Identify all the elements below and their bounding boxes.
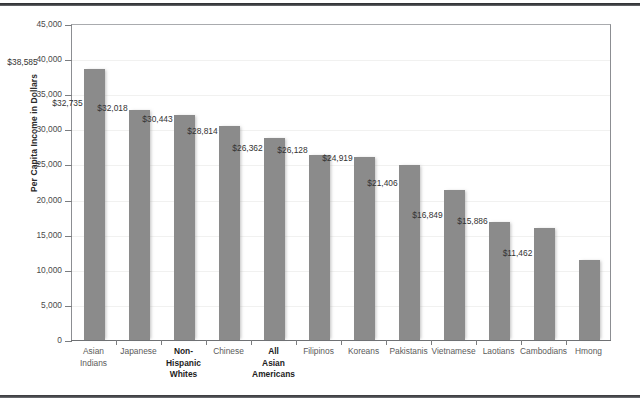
y-axis-tick <box>65 271 72 272</box>
gridline <box>72 306 610 307</box>
y-axis-tick-label: 30,000 <box>36 124 62 134</box>
gridline <box>72 201 610 202</box>
x-axis-line <box>71 340 611 341</box>
y-axis-tick-label: 20,000 <box>36 195 62 205</box>
bar-value-label: $24,919 <box>322 153 352 163</box>
y-axis-tick <box>65 341 72 342</box>
x-axis-category-label: Pakistanis <box>389 346 427 358</box>
x-axis-tick <box>341 340 342 345</box>
x-axis-tick <box>251 340 252 345</box>
bar <box>534 228 555 340</box>
y-axis-tick <box>65 306 72 307</box>
bar-value-label: $38,585 <box>7 57 37 67</box>
bar <box>264 138 285 340</box>
gridline <box>72 60 610 61</box>
gridline <box>72 95 610 96</box>
bar <box>489 222 510 340</box>
bar-value-label: $32,735 <box>52 98 82 108</box>
x-axis-category-label: Cambodians <box>520 346 567 358</box>
y-axis-tick-label: 25,000 <box>36 159 62 169</box>
x-axis-category-label: Vietnamese <box>431 346 475 358</box>
x-axis-tick <box>476 340 477 345</box>
gridline <box>72 165 610 166</box>
x-axis-tick <box>521 340 522 345</box>
y-axis-tick-label: 40,000 <box>36 54 62 64</box>
y-axis-tick <box>65 60 72 61</box>
x-axis-category-label: Non- Hispanic Whites <box>166 346 201 381</box>
x-axis-category-label: Japanese <box>120 346 156 358</box>
x-axis-tick <box>206 340 207 345</box>
bar <box>579 260 600 340</box>
y-axis-tick <box>65 236 72 237</box>
x-axis-category-label: Hmong <box>575 346 602 358</box>
bar-value-label: $28,814 <box>187 126 217 136</box>
chart-page: Per Capita Income in Dollars 05,00010,00… <box>0 0 640 401</box>
bar <box>399 165 420 340</box>
x-axis-category-label: Koreans <box>348 346 379 358</box>
bar-value-label: $26,362 <box>232 143 262 153</box>
bar-value-label: $30,443 <box>142 114 172 124</box>
y-axis-tick-label: 15,000 <box>36 230 62 240</box>
y-axis-tick-label: 5,000 <box>41 300 62 310</box>
bar <box>174 115 195 340</box>
bar-chart-figure: Per Capita Income in Dollars 05,00010,00… <box>0 10 640 392</box>
x-axis-category-label: Chinese <box>213 346 244 358</box>
x-axis-category-label: Filipinos <box>303 346 334 358</box>
x-axis-tick <box>431 340 432 345</box>
bar-value-label: $16,849 <box>412 210 442 220</box>
x-axis-category-label: All Asian Americans <box>252 346 295 381</box>
x-axis-category-label: Asian Indians <box>80 346 107 369</box>
bar-value-label: $26,128 <box>277 145 307 155</box>
x-axis-tick <box>386 340 387 345</box>
y-axis-tick <box>65 25 72 26</box>
bottom-divider-rule <box>0 395 640 398</box>
y-axis-tick-label: 45,000 <box>36 19 62 29</box>
y-axis-tick <box>65 130 72 131</box>
bar <box>444 190 465 340</box>
bar-value-label: $21,406 <box>367 178 397 188</box>
gridline <box>72 271 610 272</box>
bar-value-label: $11,462 <box>503 248 533 258</box>
y-axis-tick-label: 10,000 <box>36 265 62 275</box>
x-axis-tick <box>161 340 162 345</box>
plot-area <box>71 24 611 340</box>
gridline <box>72 130 610 131</box>
y-axis-tick <box>65 201 72 202</box>
x-axis-tick <box>296 340 297 345</box>
y-axis-tick-label: 0 <box>57 335 62 345</box>
bar-value-label: $32,018 <box>97 103 127 113</box>
x-axis-category-label: Laotians <box>483 346 515 358</box>
bar <box>219 126 240 340</box>
x-axis-tick <box>116 340 117 345</box>
gridline <box>72 236 610 237</box>
bar <box>129 110 150 340</box>
y-axis-tick <box>65 165 72 166</box>
y-axis-tick <box>65 95 72 96</box>
top-divider-rule <box>0 3 640 6</box>
x-axis-tick <box>566 340 567 345</box>
bar-value-label: $15,886 <box>457 216 487 226</box>
bar <box>309 155 330 340</box>
